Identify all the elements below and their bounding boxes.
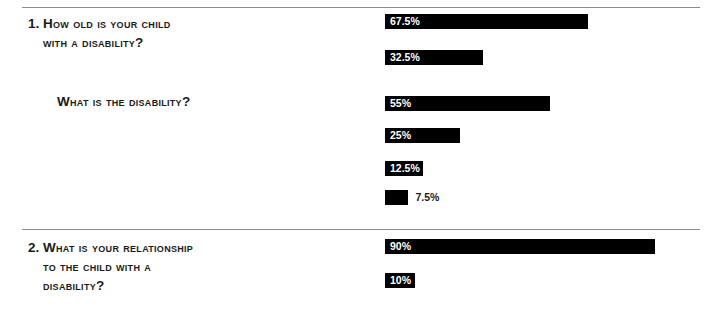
bar-track: 7.5% — [385, 190, 408, 205]
bar-track: 25% — [385, 128, 460, 143]
bar — [385, 190, 408, 205]
survey-results-figure: 1. How old is your child with a disabili… — [0, 0, 720, 315]
bar-track: 90% — [385, 239, 655, 254]
bar: 12.5% — [385, 161, 423, 176]
bar-value: 10% — [390, 273, 411, 288]
bar-track: 32.5% — [385, 50, 483, 65]
bar-track: 10% — [385, 273, 415, 288]
question-2-title: What is your relationship to the child w… — [43, 238, 258, 295]
question-2-number: 2. — [28, 238, 39, 257]
bar: 10% — [385, 273, 415, 288]
bar-value: 90% — [390, 239, 411, 254]
bar-track: 67.5% — [385, 14, 588, 29]
bar: 67.5% — [385, 14, 588, 29]
bar-value: 32.5% — [390, 50, 420, 65]
question-1-subtitle: What is the disability? — [57, 92, 277, 111]
bar: 32.5% — [385, 50, 483, 65]
bar-track: 12.5% — [385, 161, 423, 176]
bar-value: 12.5% — [390, 161, 420, 176]
divider-top — [22, 7, 700, 8]
question-1-title: How old is your child with a disability? — [43, 14, 273, 52]
divider-section-2 — [22, 229, 700, 230]
bar: 25% — [385, 128, 460, 143]
bar-track: 55% — [385, 96, 550, 111]
bar-value: 55% — [390, 96, 411, 111]
bar-value: 25% — [390, 128, 411, 143]
bar: 90% — [385, 239, 655, 254]
bar: 55% — [385, 96, 550, 111]
question-1-number: 1. — [28, 14, 39, 33]
bar-value: 7.5% — [416, 190, 440, 205]
bar-value: 67.5% — [390, 14, 420, 29]
